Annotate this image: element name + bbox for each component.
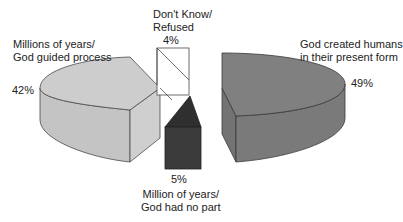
label-dont-know: Don't Know/ Refused [153, 8, 212, 34]
label-line: God guided process [13, 51, 111, 64]
slice-dont-know [157, 48, 189, 100]
value-dont-know: 4% [163, 34, 179, 47]
label-line: Million of years/ [141, 188, 221, 201]
label-line: in their present form [300, 51, 403, 64]
slice-millions-guided [40, 57, 160, 162]
label-million-no-part: Million of years/ God had no part [141, 188, 221, 214]
label-line: Refused [153, 21, 212, 34]
value-millions-guided: 42% [12, 84, 34, 97]
slice-god-created [222, 53, 345, 162]
label-line: Millions of years/ [13, 38, 111, 51]
label-god-created: God created humans in their present form [300, 38, 403, 64]
label-line: Don't Know/ [153, 8, 212, 21]
label-millions-guided: Millions of years/ God guided process [13, 38, 111, 64]
slice-million-no-part [165, 96, 201, 169]
slice-million-no-part-front [165, 127, 201, 169]
slice-million-no-part-top [165, 96, 201, 127]
value-million-no-part: 5% [171, 173, 187, 186]
value-god-created: 49% [351, 77, 373, 90]
label-line: God created humans [300, 38, 403, 51]
label-line: God had no part [141, 201, 221, 214]
slice-dont-know-body [157, 48, 189, 95]
